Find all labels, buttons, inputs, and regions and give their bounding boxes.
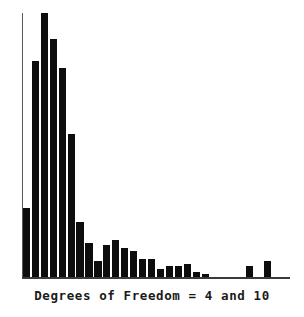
histogram-bar [23, 208, 30, 277]
histogram-bars [22, 13, 290, 277]
x-axis-line [22, 277, 290, 279]
histogram-bar [85, 243, 92, 277]
histogram-bar [32, 61, 39, 277]
histogram-bar [139, 259, 146, 277]
histogram-bar [157, 269, 164, 277]
histogram-bar [246, 266, 253, 277]
histogram-bar [166, 266, 173, 277]
histogram-bar [68, 134, 75, 277]
histogram-bar [50, 39, 57, 277]
histogram-bar [148, 259, 155, 277]
histogram-bar [121, 248, 128, 277]
histogram-bar [130, 251, 137, 277]
histogram-bar [76, 222, 83, 277]
histogram-bar [175, 266, 182, 277]
plot-area [0, 0, 304, 285]
histogram-bar [112, 240, 119, 277]
histogram-figure: Degrees of Freedom = 4 and 10 [0, 0, 304, 317]
histogram-bar [59, 68, 66, 277]
chart-caption: Degrees of Freedom = 4 and 10 [0, 288, 304, 303]
histogram-bar [202, 274, 209, 277]
histogram-bar [103, 245, 110, 277]
histogram-bar [193, 272, 200, 277]
histogram-bar [94, 261, 101, 277]
histogram-bar [41, 13, 48, 277]
histogram-bar [264, 261, 271, 277]
histogram-bar [184, 264, 191, 277]
